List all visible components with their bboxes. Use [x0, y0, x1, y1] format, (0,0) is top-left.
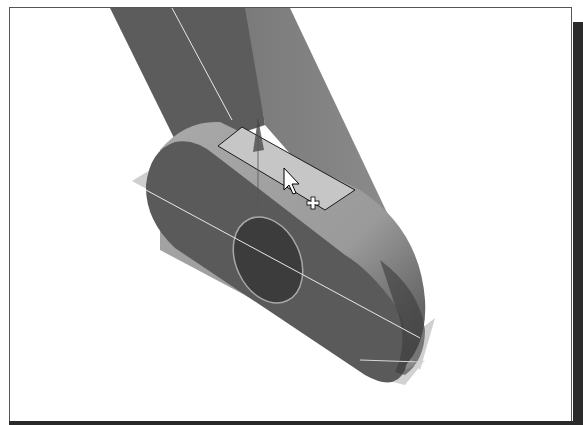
- model-canvas[interactable]: [0, 0, 583, 425]
- arm-left-face[interactable]: [110, 8, 265, 140]
